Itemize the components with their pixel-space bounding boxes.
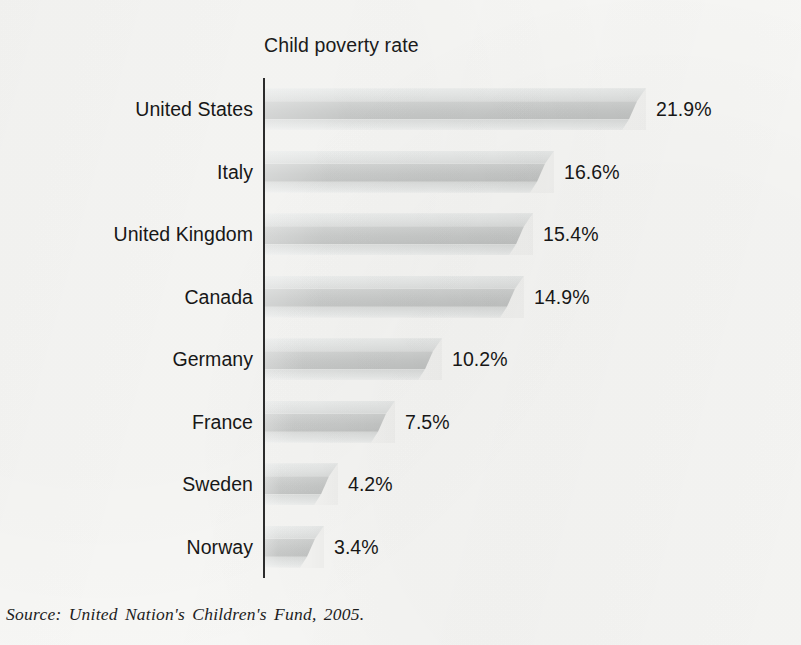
value-label-germany: 10.2% <box>452 348 508 371</box>
source-note: Source: United Nation's Children's Fund,… <box>6 604 364 625</box>
value-label-canada: 14.9% <box>534 285 590 308</box>
table-row: United Kingdom 15.4% <box>0 203 801 266</box>
category-label-germany: Germany <box>172 348 253 371</box>
bar-bottom-face <box>265 432 395 443</box>
value-label-united-kingdom: 15.4% <box>543 223 599 246</box>
table-row: Canada 14.9% <box>0 266 801 329</box>
bar-top-face <box>265 88 646 101</box>
bar-front-face <box>265 226 533 244</box>
bar-canada <box>265 276 524 318</box>
bar-bottom-face <box>265 307 524 318</box>
bar-sweden <box>265 463 338 505</box>
plot-area: United States 21.9% Italy 16.6% United K… <box>0 78 801 578</box>
category-label-united-states: United States <box>135 98 253 121</box>
bar-germany <box>265 338 442 380</box>
bar-bottom-face <box>265 182 554 193</box>
bar-top-face <box>265 276 524 289</box>
table-row: Sweden 4.2% <box>0 453 801 516</box>
bar-bottom-face <box>265 557 324 568</box>
category-label-canada: Canada <box>184 285 253 308</box>
bar-top-face <box>265 463 338 476</box>
bar-front-face <box>265 539 324 557</box>
category-label-united-kingdom: United Kingdom <box>114 223 253 246</box>
bar-bottom-face <box>265 494 338 505</box>
chart-title: Child poverty rate <box>264 34 419 57</box>
bar-bottom-face <box>265 119 646 130</box>
category-label-sweden: Sweden <box>182 473 253 496</box>
value-label-france: 7.5% <box>405 410 450 433</box>
category-label-italy: Italy <box>217 160 253 183</box>
bar-front-face <box>265 101 646 119</box>
bar-top-face <box>265 151 554 164</box>
bar-bottom-face <box>265 244 533 255</box>
value-label-italy: 16.6% <box>564 160 620 183</box>
bar-front-face <box>265 414 395 432</box>
bar-front-face <box>265 164 554 182</box>
bar-top-face <box>265 338 442 351</box>
bar-norway <box>265 526 324 568</box>
bar-france <box>265 401 395 443</box>
bar-top-face <box>265 213 533 226</box>
category-label-france: France <box>192 410 253 433</box>
value-label-norway: 3.4% <box>334 535 379 558</box>
bar-front-face <box>265 351 442 369</box>
table-row: France 7.5% <box>0 391 801 454</box>
bar-united-states <box>265 88 646 130</box>
bar-top-face <box>265 401 395 414</box>
bar-italy <box>265 151 554 193</box>
bar-front-face <box>265 476 338 494</box>
table-row: Norway 3.4% <box>0 516 801 579</box>
bar-united-kingdom <box>265 213 533 255</box>
value-label-united-states: 21.9% <box>656 98 712 121</box>
table-row: Italy 16.6% <box>0 141 801 204</box>
category-label-norway: Norway <box>187 535 253 558</box>
table-row: Germany 10.2% <box>0 328 801 391</box>
bar-front-face <box>265 289 524 307</box>
value-label-sweden: 4.2% <box>348 473 393 496</box>
bar-bottom-face <box>265 369 442 380</box>
bar-top-face <box>265 526 324 539</box>
child-poverty-rate-bar-chart: Child poverty rate United States 21.9% I… <box>0 0 801 645</box>
table-row: United States 21.9% <box>0 78 801 141</box>
